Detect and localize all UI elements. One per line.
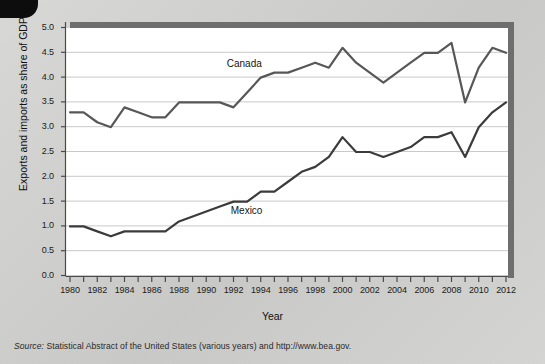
x-tick-label: 2006 [409, 285, 439, 295]
x-tick-label: 1982 [82, 285, 112, 295]
x-tick-label: 2012 [491, 285, 521, 295]
series-label-canada: Canada [227, 58, 262, 69]
y-tick-label: 4.5 [28, 47, 54, 57]
y-tick-label: 2.5 [28, 146, 54, 156]
x-tick-label: 2004 [382, 285, 412, 295]
axis-spines-group [66, 22, 509, 277]
x-tick-label: 1988 [164, 285, 194, 295]
y-tick-label: 1.5 [28, 196, 54, 206]
x-tick-label: 1992 [219, 285, 249, 295]
y-axis-title: Exports and imports as share of GDP [17, 0, 29, 219]
x-tick-label: 1998 [300, 285, 330, 295]
y-tick-label: 3.0 [28, 121, 54, 131]
x-tick-label: 1990 [191, 285, 221, 295]
y-tick-label: 5.0 [28, 22, 54, 32]
x-tick-label: 1994 [246, 285, 276, 295]
x-tick-label: 1996 [273, 285, 303, 295]
x-tick-marks-group [70, 277, 506, 283]
x-tick-label: 1984 [110, 285, 140, 295]
y-tick-label: 1.0 [28, 220, 54, 230]
x-tick-label: 1986 [137, 285, 167, 295]
series-label-mexico: Mexico [231, 205, 263, 216]
y-tick-marks-group [61, 28, 66, 276]
x-tick-label: 1980 [55, 285, 85, 295]
y-tick-label: 0.0 [28, 270, 54, 280]
x-tick-label: 2002 [355, 285, 385, 295]
y-tick-label: 2.0 [28, 171, 54, 181]
y-tick-label: 4.0 [28, 72, 54, 82]
source-citation: Statistical Abstract of the United State… [44, 341, 351, 351]
x-axis-title: Year [0, 310, 545, 322]
x-tick-label: 2008 [437, 285, 467, 295]
y-tick-label: 0.5 [28, 245, 54, 255]
x-tick-label: 2010 [464, 285, 494, 295]
figure-container: 0.00.51.01.52.02.53.03.54.04.55.0 198019… [0, 0, 545, 364]
source-label: Source: [14, 341, 44, 351]
y-tick-label: 3.5 [28, 96, 54, 106]
x-tick-label: 2000 [328, 285, 358, 295]
source-note: Source: Statistical Abstract of the Unit… [14, 341, 351, 351]
